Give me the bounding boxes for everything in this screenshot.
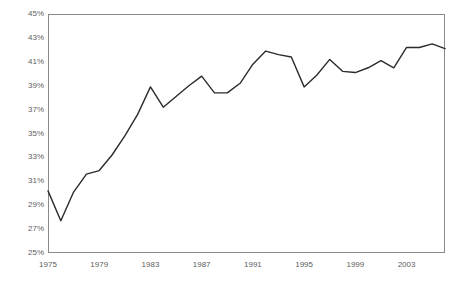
x-tick-label: 1995 (284, 260, 324, 269)
x-tick-label: 1991 (233, 260, 273, 269)
x-tick-label: 1975 (28, 260, 68, 269)
x-tick-label: 1983 (130, 260, 170, 269)
x-tick-label: 1979 (79, 260, 119, 269)
chart-container: 45%43%41%39%37%35%33%31%29%27%25% 197519… (0, 0, 467, 287)
x-tick-label: 1999 (335, 260, 375, 269)
x-tick-label: 1987 (182, 260, 222, 269)
x-axis: 19751979198319871991199519992003 (0, 0, 467, 287)
x-tick-label: 2003 (387, 260, 427, 269)
